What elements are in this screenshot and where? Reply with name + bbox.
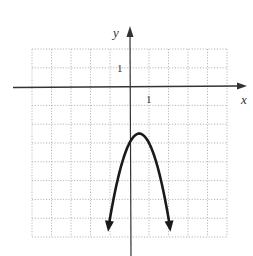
x-axis bbox=[13, 86, 240, 88]
y-axis bbox=[130, 34, 131, 256]
y-axis-arrow-icon bbox=[127, 26, 134, 37]
parabola-graph: y x 1 1 bbox=[0, 0, 253, 256]
parabola-path bbox=[109, 134, 170, 225]
x-axis-label: x bbox=[240, 92, 247, 107]
x-axis-arrow-icon bbox=[237, 83, 247, 90]
curve-arrowhead-icon bbox=[165, 220, 174, 231]
parabola-curve bbox=[105, 134, 174, 232]
x-unit-label: 1 bbox=[146, 93, 152, 105]
y-axis-label: y bbox=[111, 25, 119, 40]
curve-arrowhead-icon bbox=[105, 220, 114, 231]
y-unit-label: 1 bbox=[117, 62, 123, 74]
